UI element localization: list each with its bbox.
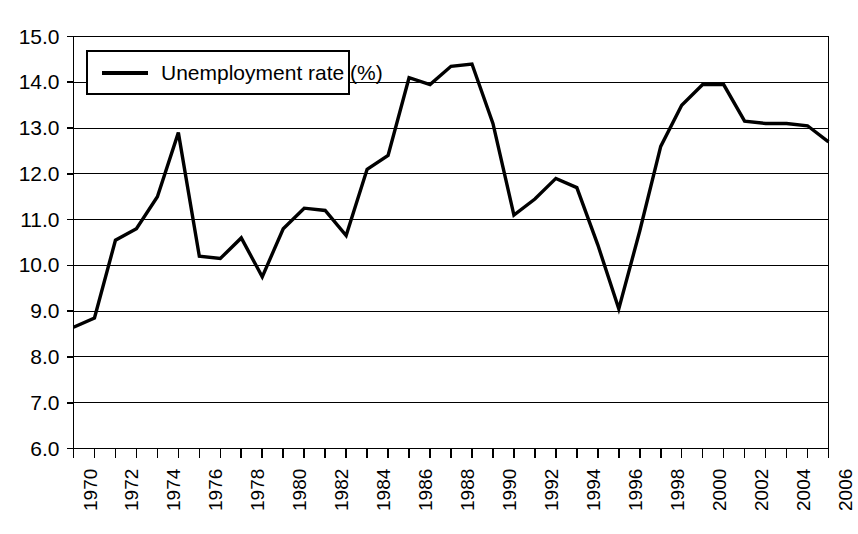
y-axis-tick-label: 8.0 bbox=[0, 346, 60, 367]
x-axis-tick-label: 2002 bbox=[752, 468, 771, 510]
x-axis-tick-label: 1988 bbox=[458, 468, 477, 510]
x-axis-tick-label: 2004 bbox=[794, 468, 813, 510]
series-line-0 bbox=[74, 64, 829, 327]
x-axis-tick-label: 1984 bbox=[374, 468, 393, 510]
x-axis-tick-label: 1994 bbox=[584, 468, 603, 510]
x-axis-tick-label: 1976 bbox=[206, 468, 225, 510]
x-axis-tick-label: 1990 bbox=[500, 468, 519, 510]
unemployment-rate-line-chart: Unemployment rate (%) 15.014.013.012.011… bbox=[0, 0, 858, 534]
x-axis-tick-label: 2006 bbox=[836, 468, 855, 510]
x-axis-tick-label: 1998 bbox=[668, 468, 687, 510]
x-axis-tick-label: 1974 bbox=[164, 468, 183, 510]
x-axis-tick-label: 1980 bbox=[290, 468, 309, 510]
y-axis-tick-label: 7.0 bbox=[0, 392, 60, 413]
x-axis-tick-label: 1972 bbox=[122, 468, 141, 510]
y-axis-tick-label: 11.0 bbox=[0, 209, 60, 230]
y-axis-tick-label: 15.0 bbox=[0, 26, 60, 47]
chart-legend: Unemployment rate (%) bbox=[86, 50, 350, 95]
x-axis-tick-label: 1986 bbox=[416, 468, 435, 510]
x-axis-tick-label: 1970 bbox=[81, 468, 100, 510]
legend-entry-label: Unemployment rate (%) bbox=[161, 61, 383, 85]
x-axis-tick-label: 1982 bbox=[332, 468, 351, 510]
y-axis-tick-label: 12.0 bbox=[0, 163, 60, 184]
y-axis-tick-label: 13.0 bbox=[0, 117, 60, 138]
y-axis-tick-label: 10.0 bbox=[0, 254, 60, 275]
y-axis-tick-label: 9.0 bbox=[0, 300, 60, 321]
y-axis-tick-label: 14.0 bbox=[0, 71, 60, 92]
x-axis-tick-label: 1992 bbox=[542, 468, 561, 510]
x-axis-tick-label: 2000 bbox=[710, 468, 729, 510]
x-axis-tick-label: 1996 bbox=[626, 468, 645, 510]
legend-line-swatch bbox=[102, 71, 148, 75]
y-axis-tick-label: 6.0 bbox=[0, 438, 60, 459]
x-axis-tick-label: 1978 bbox=[248, 468, 267, 510]
